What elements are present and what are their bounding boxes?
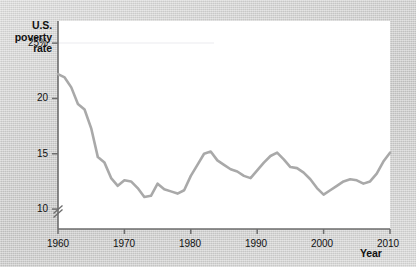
y-axis-break-icon — [54, 204, 64, 218]
y-axis-ticks — [52, 43, 58, 209]
plot-area — [58, 21, 390, 229]
chart-svg — [0, 0, 416, 267]
